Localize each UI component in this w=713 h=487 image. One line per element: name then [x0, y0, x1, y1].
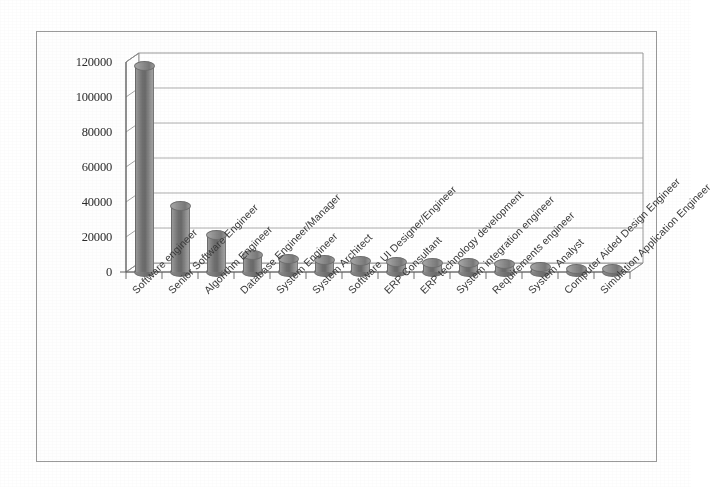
chart-outer-frame [36, 31, 657, 462]
